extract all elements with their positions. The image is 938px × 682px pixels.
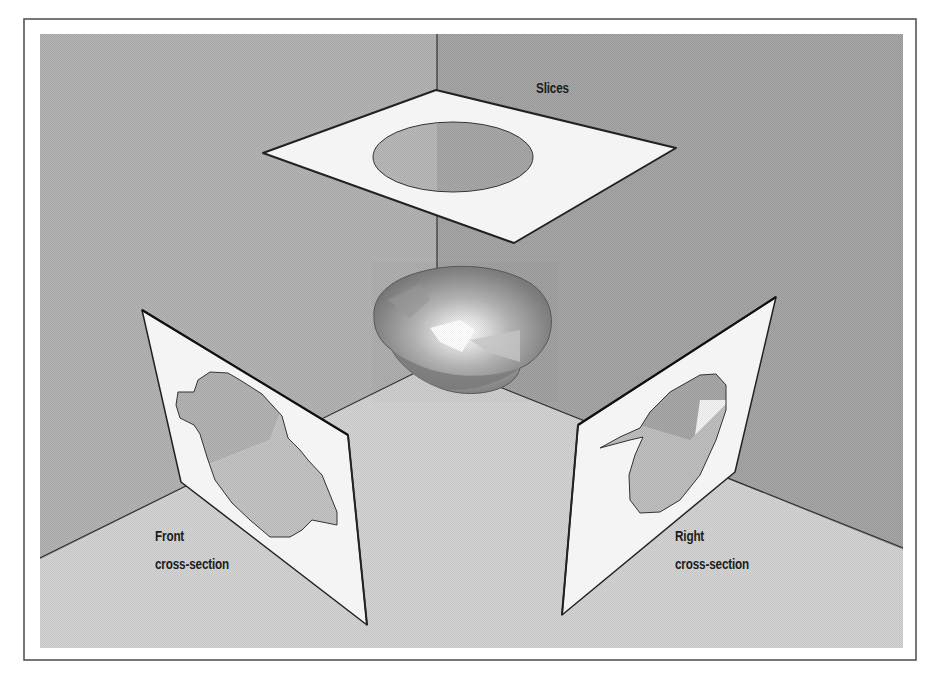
3d-object — [372, 262, 558, 402]
label-front-cross-section: Front cross-section — [155, 522, 229, 578]
label-slices: Slices — [536, 74, 569, 102]
label-right-cross-section: Right cross-section — [675, 522, 749, 578]
diagram-canvas — [0, 0, 938, 682]
label-front-line1: Front — [155, 522, 229, 550]
label-right-line1: Right — [675, 522, 749, 550]
label-slices-text: Slices — [536, 74, 569, 102]
label-right-line2: cross-section — [675, 550, 749, 578]
cross-section-diagram: Slices Front cross-section Right cross-s… — [0, 0, 938, 682]
label-front-line2: cross-section — [155, 550, 229, 578]
